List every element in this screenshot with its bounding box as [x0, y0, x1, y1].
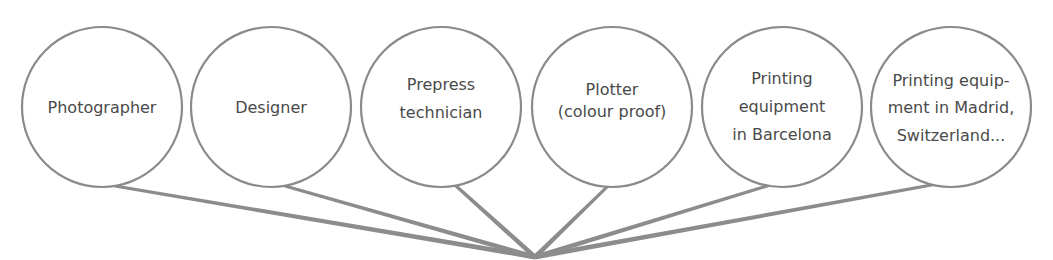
node-label-line-2: ment in Madrid, — [888, 98, 1015, 117]
node-label-line-3: in Barcelona — [732, 125, 832, 144]
fan-in-diagram: Photographer Designer Prepress technicia… — [0, 0, 1053, 260]
node-label-line-2: (colour proof) — [558, 102, 667, 121]
node-label-line-2: equipment — [739, 97, 826, 116]
node-label-line-2: technician — [400, 103, 483, 122]
node-plotter: Plotter (colour proof) — [532, 27, 692, 187]
node-label-line-1: Printing — [751, 69, 813, 88]
node-label-line-1: Printing equip- — [892, 71, 1009, 90]
node-label-line-1: Plotter — [586, 80, 639, 99]
node-prepress-technician: Prepress technician — [361, 27, 521, 187]
node-designer: Designer — [191, 27, 351, 187]
connector-lines — [115, 182, 938, 259]
node-label: Designer — [235, 98, 307, 117]
node-label-line-1: Prepress — [407, 75, 475, 94]
node-photographer: Photographer — [22, 27, 182, 187]
node-printing-madrid-switzerland: Printing equip- ment in Madrid, Switzerl… — [871, 27, 1031, 187]
role-nodes: Photographer Designer Prepress technicia… — [22, 27, 1031, 187]
node-label: Photographer — [48, 98, 157, 117]
node-printing-barcelona: Printing equipment in Barcelona — [702, 27, 862, 187]
node-label-line-3: Switzerland... — [897, 126, 1006, 145]
